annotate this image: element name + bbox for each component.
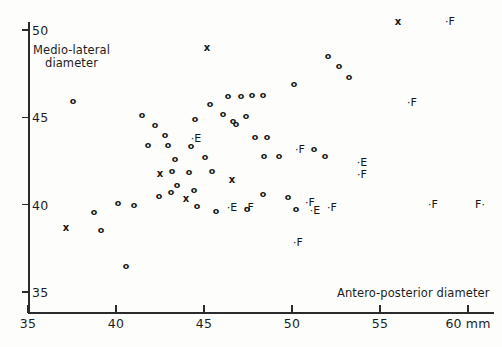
- data-point-o: o: [322, 151, 329, 162]
- data-point-fr: F·: [475, 200, 485, 211]
- data-point-e: ·E: [227, 203, 237, 214]
- x-tick-label-40: 40: [108, 316, 124, 331]
- y-tick-label-35: 35: [32, 285, 48, 300]
- data-point-f: ·F: [407, 98, 417, 109]
- y-tick-45: [22, 117, 29, 119]
- data-point-o: o: [169, 166, 176, 177]
- data-point-f: ·F: [244, 203, 254, 214]
- data-point-o: o: [156, 191, 163, 202]
- y-axis-line: [28, 22, 30, 313]
- x-tick-40: [115, 305, 117, 313]
- data-point-o: o: [98, 225, 105, 236]
- data-point-o: o: [202, 152, 209, 163]
- data-point-o: o: [260, 189, 267, 200]
- x-tick-label-50: 50: [284, 316, 300, 331]
- data-point-o: o: [249, 90, 256, 101]
- x-axis-line: [28, 312, 494, 314]
- x-tick-label-60: 60 mm: [445, 316, 490, 331]
- data-point-o: o: [209, 166, 216, 177]
- data-point-o: o: [194, 201, 201, 212]
- data-point-x: x: [157, 169, 163, 180]
- data-point-e: ·E: [357, 158, 367, 169]
- data-point-o: o: [191, 185, 198, 196]
- data-point-f: ·F: [305, 198, 315, 209]
- y-tick-label-40: 40: [32, 197, 48, 212]
- data-point-f: ·F: [295, 145, 305, 156]
- data-point-o: o: [220, 109, 227, 120]
- x-tick-35: [27, 305, 29, 313]
- x-tick-50: [291, 305, 293, 313]
- x-tick-label-35: 35: [20, 316, 36, 331]
- data-point-o: o: [70, 96, 77, 107]
- data-point-o: o: [131, 200, 138, 211]
- data-point-o: o: [172, 154, 179, 165]
- data-point-o: o: [238, 91, 245, 102]
- data-point-o: o: [91, 207, 98, 218]
- y-axis-title: Medio-lateral diameter: [33, 44, 110, 70]
- y-tick-label-50: 50: [32, 23, 48, 38]
- x-tick-label-55: 55: [372, 316, 388, 331]
- data-point-x: x: [229, 175, 235, 186]
- x-tick-55: [379, 305, 381, 313]
- data-point-f: ·F: [445, 17, 455, 28]
- data-point-f: ·F: [293, 238, 303, 249]
- data-point-o: o: [213, 206, 220, 217]
- data-point-o: o: [152, 120, 159, 131]
- data-point-o: o: [233, 119, 240, 130]
- data-point-x: x: [183, 194, 189, 205]
- x-tick-60: [467, 305, 469, 313]
- x-tick-45: [203, 305, 205, 313]
- data-point-o: o: [243, 111, 250, 122]
- x-tick-label-45: 45: [196, 316, 212, 331]
- x-axis-title: Antero-posterior diameter: [337, 286, 490, 300]
- data-point-o: o: [115, 198, 122, 209]
- data-point-o: o: [123, 261, 130, 272]
- data-point-o: o: [285, 192, 292, 203]
- data-point-o: o: [165, 140, 172, 151]
- data-point-o: o: [168, 187, 175, 198]
- data-point-o: o: [276, 151, 283, 162]
- data-point-o: o: [252, 132, 259, 143]
- data-point-o: o: [261, 151, 268, 162]
- data-point-f: ·F: [327, 203, 337, 214]
- data-point-o: o: [264, 132, 271, 143]
- y-tick-label-45: 45: [32, 110, 48, 125]
- data-point-o: o: [186, 167, 193, 178]
- data-point-x: x: [63, 223, 69, 234]
- data-point-o: o: [225, 91, 232, 102]
- y-tick-50: [22, 29, 29, 31]
- data-point-f: ·F: [357, 170, 367, 181]
- data-point-o: o: [291, 79, 298, 90]
- data-point-x: x: [204, 43, 210, 54]
- data-point-o: o: [192, 114, 199, 125]
- data-point-f: ·F: [428, 200, 438, 211]
- data-point-e: ·E: [191, 134, 201, 145]
- data-point-x: x: [395, 17, 401, 28]
- y-tick-40: [22, 204, 29, 206]
- data-point-o: o: [260, 90, 267, 101]
- y-tick-35: [22, 291, 29, 293]
- data-point-o: o: [311, 144, 318, 155]
- data-point-o: o: [293, 204, 300, 215]
- data-point-o: o: [325, 51, 332, 62]
- data-point-o: o: [336, 61, 343, 72]
- scatter-plot-figure: Medio-lateral diameter Antero-posterior …: [0, 0, 502, 347]
- data-point-o: o: [145, 140, 152, 151]
- data-point-o: o: [207, 99, 214, 110]
- data-point-o: o: [139, 110, 146, 121]
- data-point-o: o: [346, 72, 353, 83]
